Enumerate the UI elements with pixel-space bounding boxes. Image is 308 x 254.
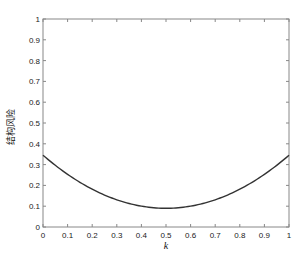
- y-tick-label: 0.7: [29, 77, 41, 86]
- y-axis-label: 结构风险: [5, 109, 16, 145]
- x-tick-label: 0.4: [136, 231, 148, 240]
- x-axis: 00.10.20.30.40.50.60.70.80.91: [41, 19, 292, 240]
- y-tick-label: 0.6: [29, 98, 41, 107]
- plot-frame: [43, 19, 289, 227]
- x-tick-label: 0.8: [234, 231, 246, 240]
- x-tick-label: 0.6: [185, 231, 197, 240]
- y-tick-label: 0.9: [29, 36, 41, 45]
- plot-border: [43, 19, 289, 227]
- y-tick-label: 0.3: [29, 161, 41, 170]
- x-tick-label: 0.9: [259, 231, 271, 240]
- x-tick-label: 0.7: [210, 231, 222, 240]
- x-tick-label: 1: [287, 231, 292, 240]
- y-tick-label: 0.8: [29, 57, 41, 66]
- data-series: [43, 155, 289, 208]
- x-tick-label: 0.5: [160, 231, 172, 240]
- x-tick-label: 0.1: [62, 231, 74, 240]
- series-line: [43, 155, 289, 208]
- y-tick-label: 1: [36, 15, 41, 24]
- y-tick-label: 0.2: [29, 181, 41, 190]
- x-tick-label: 0: [41, 231, 46, 240]
- x-tick-label: 0.3: [111, 231, 123, 240]
- y-axis: 00.10.20.30.40.50.60.70.80.91: [29, 15, 289, 232]
- y-tick-label: 0.4: [29, 140, 41, 149]
- x-tick-label: 0.2: [87, 231, 99, 240]
- x-axis-label: k: [164, 240, 169, 251]
- chart: 00.10.20.30.40.50.60.70.80.91 00.10.20.3…: [0, 0, 308, 254]
- y-tick-label: 0.1: [29, 202, 41, 211]
- y-tick-label: 0.5: [29, 119, 41, 128]
